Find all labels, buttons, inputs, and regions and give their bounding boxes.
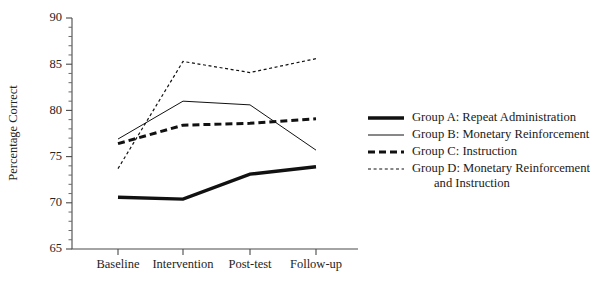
legend-label-a: Group A: Repeat Administration <box>412 110 577 124</box>
chart-figure: 657075808590 BaselineInterventionPost-te… <box>0 0 590 288</box>
y-tick-label: 65 <box>50 241 63 255</box>
y-tick-label: 85 <box>50 57 63 71</box>
y-tick-label: 70 <box>50 195 63 209</box>
x-tick-label: Post-test <box>228 257 272 271</box>
y-tick-label: 80 <box>50 103 63 117</box>
legend-label-d-line2: and Instruction <box>434 176 511 190</box>
y-tick-label: 75 <box>50 149 63 163</box>
y-axis-title: Percentage Correct <box>6 85 20 181</box>
line-chart: 657075808590 BaselineInterventionPost-te… <box>0 0 590 288</box>
legend-label-c: Group C: Instruction <box>412 144 518 158</box>
legend-label-b: Group B: Monetary Reinforcement <box>412 127 590 141</box>
y-tick-label: 90 <box>50 10 63 24</box>
x-tick-label: Intervention <box>152 257 214 271</box>
x-tick-label: Follow-up <box>290 257 342 271</box>
x-tick-label: Baseline <box>96 257 139 271</box>
legend-label-d: Group D: Monetary Reinforcement <box>412 161 590 175</box>
